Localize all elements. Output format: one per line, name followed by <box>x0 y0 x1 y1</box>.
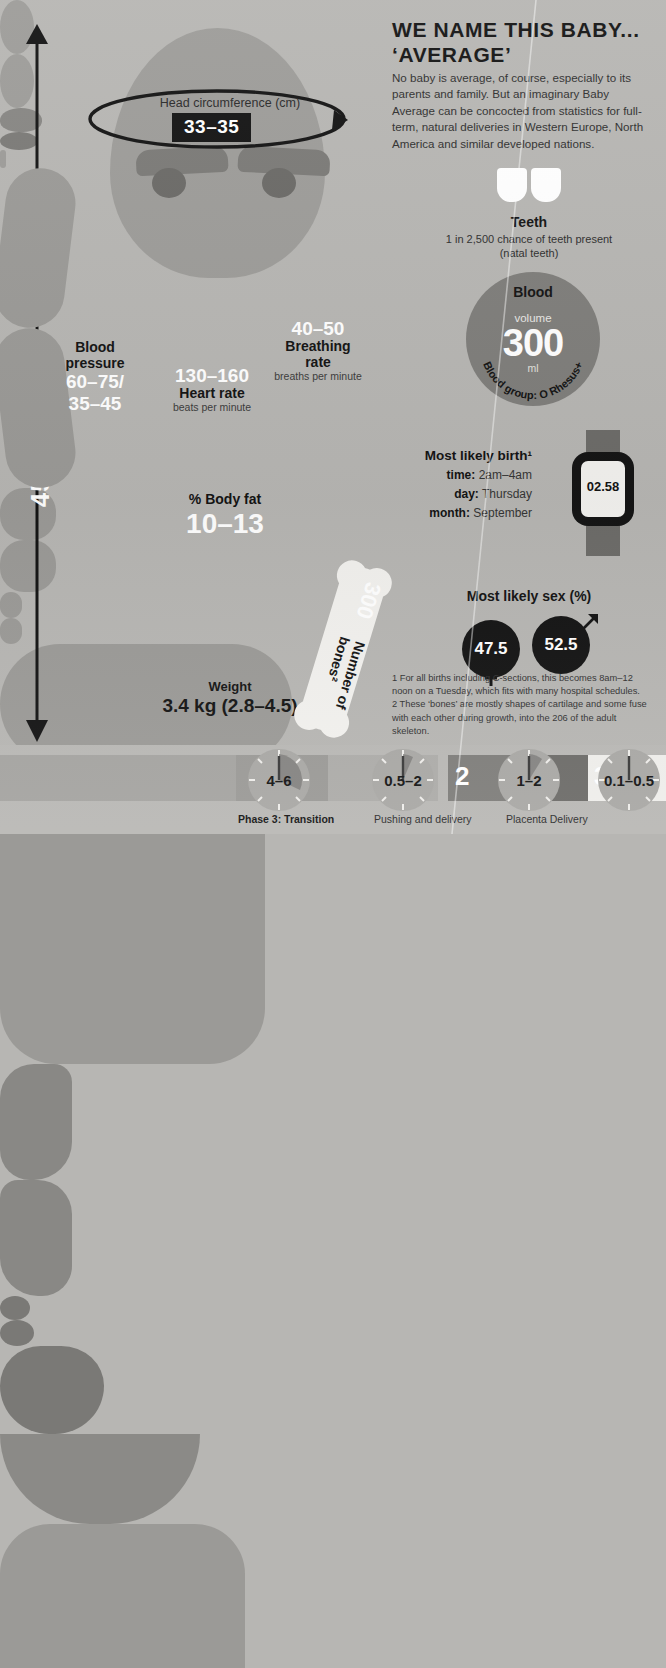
sex-title: Most likely sex (%) <box>392 588 666 604</box>
heart-rate-label: 130–160 Heart rate beats per minute <box>146 365 278 414</box>
timeline-caption-1: Phase 3: Transition <box>238 813 334 825</box>
birth-month-key: month: <box>429 506 470 520</box>
baby-belly-fat-curve <box>0 1434 200 1524</box>
heart-rate-value: 130–160 <box>146 365 278 386</box>
right-column: WE NAME THIS BABY... ‘AVERAGE’ No baby i… <box>392 0 666 760</box>
timeline-caption-2: Pushing and delivery <box>374 813 471 825</box>
baby-eye-right <box>262 168 296 198</box>
timeline-caption-3: Placenta Delivery <box>506 813 588 825</box>
baby-thumb-right <box>0 618 22 644</box>
breathing-rate-value: 40–50 <box>258 318 378 339</box>
blood-pressure-value: 60–75/ 35–45 <box>40 371 150 414</box>
intro-paragraph: No baby is average, of course, especiall… <box>392 70 654 152</box>
baby-heart-artery-left <box>0 1296 30 1320</box>
phase-number-2: 2 <box>455 761 469 792</box>
birth-time-key: time: <box>447 468 476 482</box>
teeth-block: Teeth 1 in 2,500 chance of teeth present… <box>392 168 666 261</box>
teeth-title: Teeth <box>392 214 666 230</box>
smartwatch-icon: 02.58 <box>572 430 634 556</box>
baby-lip-split <box>0 150 6 168</box>
heart-rate-sub: beats per minute <box>146 402 278 414</box>
birth-row-time: time: 2am–4am <box>392 468 532 482</box>
birth-month-value: September <box>473 506 532 520</box>
baby-lung-left <box>0 1064 72 1180</box>
baby-eye-left <box>152 168 186 198</box>
birth-day-key: day: <box>454 487 479 501</box>
baby-lung-right <box>0 1180 72 1296</box>
clock-value-4: 0.1–0.5 <box>604 772 654 789</box>
baby-hips <box>0 1524 245 1668</box>
teeth-subtitle: 1 in 2,500 chance of teeth present (nata… <box>392 232 666 261</box>
clock-value-2: 0.5–2 <box>384 772 422 789</box>
tooth-icon-left <box>497 168 527 202</box>
baby-thumb-left <box>0 592 22 618</box>
heart-rate-title: Heart rate <box>146 386 278 402</box>
baby-heart <box>0 1346 104 1434</box>
blood-volume-value: 300 <box>466 322 600 365</box>
watch-time-value: 02.58 <box>581 479 625 494</box>
labour-timeline: 2 3 4–6 0.5–2 <box>0 745 666 834</box>
bones-label: Number of bones² <box>296 631 368 736</box>
footnotes: 1 For all births including C-sections, t… <box>392 672 654 738</box>
blood-pressure-title: Blood pressure <box>40 340 150 371</box>
clock-value-3: 1–2 <box>516 772 541 789</box>
tooth-icon-right <box>531 168 561 202</box>
blood-circle: Blood group: O Rhesus+ Blood volume 300 … <box>466 272 600 406</box>
clock-icon-1: 4–6 <box>248 749 310 811</box>
birth-row-month: month: September <box>392 506 532 520</box>
birth-day-value: Thursday <box>482 487 532 501</box>
blood-volume-unit: ml <box>466 362 600 374</box>
page-title: WE NAME THIS BABY... ‘AVERAGE’ <box>392 18 660 68</box>
blood-title: Blood <box>466 284 600 300</box>
body-fat-title: % Body fat <box>150 492 300 508</box>
female-percentage: 47.5 <box>462 620 520 678</box>
timeline-segment-1 <box>0 755 236 801</box>
clock-icon-2: 0.5–2 <box>372 749 434 811</box>
teeth-icon <box>495 168 563 206</box>
body-fat-label: % Body fat 10–13 <box>150 492 300 539</box>
birth-row-day: day: Thursday <box>392 487 532 501</box>
bone-icon: 300 Number of bones² <box>296 562 389 736</box>
clock-icon-3: 1–2 <box>498 749 560 811</box>
baby-heart-artery-right <box>0 1320 34 1346</box>
baby-arm-left <box>0 164 79 331</box>
body-fat-value: 10–13 <box>150 508 300 539</box>
birth-block: Most likely birth¹ time: 2am–4am day: Th… <box>392 448 532 520</box>
head-circumference-value: 33–35 <box>172 113 251 142</box>
clock-icon-4: 0.1–0.5 <box>598 749 660 811</box>
head-circumference-label: Head circumference (cm) <box>120 96 340 110</box>
birth-time-value: 2am–4am <box>479 468 532 482</box>
weight-title: Weight <box>135 680 325 695</box>
male-percentage: 52.5 <box>532 616 590 674</box>
clock-value-1: 4–6 <box>266 772 291 789</box>
birth-title: Most likely birth¹ <box>392 448 532 463</box>
blood-pressure-label: Blood pressure 60–75/ 35–45 <box>40 340 150 414</box>
baby-illustration: 45–50 Head circumference (cm) 33–35 Bloo… <box>0 0 420 760</box>
